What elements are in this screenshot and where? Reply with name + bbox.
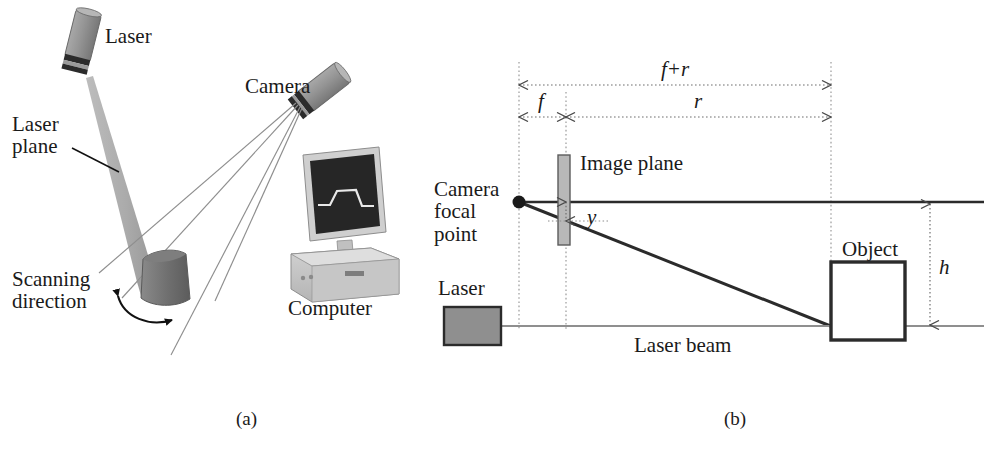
dimension-label-r: r: [694, 90, 702, 112]
object-box: [831, 262, 905, 340]
laser-source-block: [444, 307, 501, 345]
dimension-label-f: f: [538, 90, 544, 112]
figure-canvas: Laser Laser plane Camera Computer Scanni…: [0, 0, 984, 456]
label-image-plane: Image plane: [580, 152, 683, 174]
label-laser-b: Laser: [438, 277, 485, 299]
label-camera-focal-point: Camera focal point: [434, 178, 499, 245]
dimension-label-h: h: [939, 256, 950, 278]
camera-focal-point-dot: [513, 196, 526, 209]
label-laser-beam: Laser beam: [634, 334, 731, 356]
dimension-label-y: y: [587, 206, 596, 228]
image-plane-rect: [558, 155, 570, 245]
dimension-label-f-plus-r: f+r: [661, 58, 689, 80]
caption-b: (b): [724, 409, 746, 429]
caption-a: (a): [236, 409, 257, 429]
label-object: Object: [842, 238, 898, 260]
